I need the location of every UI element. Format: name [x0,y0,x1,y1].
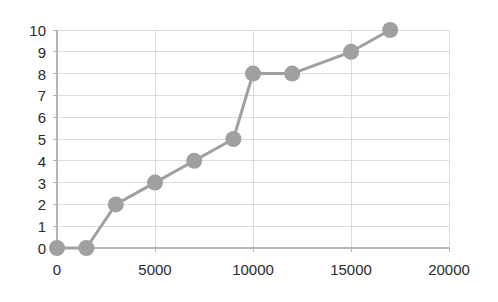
x-tick-label: 15000 [330,262,372,277]
line-chart: 012345678910 05000100001500020000 [0,0,498,302]
data-point-marker [78,240,94,256]
y-tick-label: 6 [0,110,46,125]
data-point-marker [382,22,398,38]
data-point-marker [343,44,359,60]
y-tick-label: 0 [0,241,46,256]
y-tick-label: 5 [0,132,46,147]
data-point-marker [49,240,65,256]
y-tick-label: 10 [0,23,46,38]
y-tick-label: 3 [0,175,46,190]
y-tick-label: 1 [0,219,46,234]
data-point-marker [225,131,241,147]
x-tick-label: 20000 [428,262,470,277]
y-tick-label: 4 [0,153,46,168]
x-tick-label: 0 [53,262,61,277]
data-point-marker [245,66,261,82]
y-tick-label: 2 [0,197,46,212]
data-point-marker [147,175,163,191]
x-tick-label: 5000 [138,262,171,277]
axis-tick-marks [53,30,449,252]
y-tick-label: 7 [0,88,46,103]
plot-area [0,0,498,302]
data-point-marker [284,66,300,82]
y-tick-label: 9 [0,44,46,59]
data-point-marker [108,196,124,212]
data-point-marker [186,153,202,169]
y-tick-label: 8 [0,66,46,81]
x-tick-label: 10000 [232,262,274,277]
